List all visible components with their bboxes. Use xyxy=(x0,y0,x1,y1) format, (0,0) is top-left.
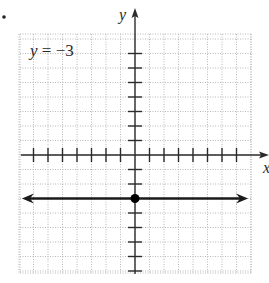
x-axis-label: x xyxy=(262,159,269,176)
y-intercept-point xyxy=(131,194,140,203)
coordinate-plane-figure: y = −3 y x xyxy=(0,0,269,283)
list-bullet xyxy=(2,15,6,19)
y-axis-label: y xyxy=(117,6,127,24)
equation-label: y = −3 xyxy=(28,41,74,60)
